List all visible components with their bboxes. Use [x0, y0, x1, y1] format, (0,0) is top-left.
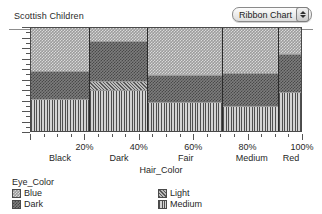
x-axis-tick: [44, 134, 45, 137]
mosaic-segment[interactable]: [31, 100, 89, 131]
x-axis-tick: [152, 134, 153, 137]
mosaic-segment[interactable]: [223, 107, 279, 131]
x-axis-tick: [261, 134, 262, 137]
x-axis-category-label: Red: [283, 153, 300, 163]
mosaic-segment[interactable]: [148, 103, 221, 131]
mosaic-plot-area[interactable]: [30, 27, 302, 132]
mosaic-segment[interactable]: [223, 28, 279, 74]
x-axis-percent-label: 40%: [130, 142, 148, 152]
y-axis-tick: [22, 90, 30, 91]
x-axis-tick: [30, 134, 31, 140]
mosaic-column[interactable]: [90, 28, 148, 131]
x-axis-percent-label: 80%: [239, 142, 257, 152]
mosaic-segment[interactable]: [90, 91, 147, 131]
mosaic-column[interactable]: [31, 28, 90, 131]
mosaic-segment[interactable]: [90, 82, 147, 91]
x-axis-percent-label: 100%: [290, 142, 313, 152]
x-axis-tick: [84, 134, 85, 140]
page-title: Scottish Children: [14, 11, 84, 21]
mosaic-segment[interactable]: [223, 74, 279, 107]
x-axis-tick: [234, 134, 235, 137]
x-axis-tick: [207, 134, 208, 137]
x-axis-tick: [220, 134, 221, 137]
x-axis-tick: [139, 134, 140, 140]
x-axis-tick: [57, 134, 58, 137]
legend-swatch: [12, 200, 21, 209]
legend-label: Dark: [24, 199, 43, 209]
x-axis-category-label: Black: [49, 153, 71, 163]
legend-swatch: [158, 200, 167, 209]
mosaic-segment[interactable]: [90, 42, 147, 81]
chart-type-popup-button[interactable]: Ribbon Chart: [232, 7, 312, 22]
x-axis-tick: [302, 134, 303, 140]
mosaic-segment[interactable]: [279, 28, 301, 55]
y-axis-tick: [22, 122, 30, 123]
x-axis-category-label: Fair: [178, 153, 194, 163]
legend-entry[interactable]: Blue: [12, 188, 42, 198]
x-axis-tick: [275, 134, 276, 137]
legend-swatch: [158, 189, 167, 198]
mosaic-segment[interactable]: [279, 55, 301, 93]
y-axis-tick: [22, 132, 30, 133]
x-axis-tick: [166, 134, 167, 137]
legend-entry[interactable]: Dark: [12, 199, 43, 209]
legend-title: Eye_Color: [12, 177, 54, 187]
y-axis-tick: [22, 69, 30, 70]
legend-label: Blue: [24, 188, 42, 198]
legend-label: Medium: [170, 199, 202, 209]
y-axis-tick: [22, 111, 30, 112]
legend-entry[interactable]: Medium: [158, 199, 202, 209]
y-axis-tick: [22, 38, 30, 39]
mosaic-segment[interactable]: [90, 28, 147, 42]
legend-label: Light: [170, 188, 190, 198]
x-axis-tick: [71, 134, 72, 137]
x-axis-title: Hair_Color: [0, 165, 322, 175]
chart-type-popup-label: Ribbon Chart: [239, 10, 296, 20]
x-axis-tick: [193, 134, 194, 140]
x-axis-tick: [112, 134, 113, 137]
y-axis-ticks: [22, 27, 30, 132]
mosaic-column[interactable]: [279, 28, 301, 131]
x-axis-tick: [288, 134, 289, 137]
y-axis-tick: [22, 59, 30, 60]
mosaic-segment[interactable]: [31, 72, 89, 100]
mosaic-column[interactable]: [148, 28, 222, 131]
mosaic-segment[interactable]: [279, 93, 301, 131]
stepper-control[interactable]: [296, 7, 309, 22]
y-axis-tick: [22, 80, 30, 81]
legend-entry[interactable]: Light: [158, 188, 190, 198]
x-axis-tick: [125, 134, 126, 137]
x-axis-percent-label: 60%: [184, 142, 202, 152]
x-axis-tick: [98, 134, 99, 137]
y-axis-tick: [22, 101, 30, 102]
x-axis-tick: [180, 134, 181, 137]
x-axis-category-label: Dark: [110, 153, 129, 163]
x-axis-ticks: [30, 134, 302, 142]
x-axis-category-label: Medium: [236, 153, 268, 163]
mosaic-column[interactable]: [223, 28, 280, 131]
y-axis-tick: [22, 27, 30, 28]
triangle-down-icon: [300, 15, 306, 18]
y-axis-tick: [22, 48, 30, 49]
triangle-up-icon: [300, 11, 306, 14]
x-axis-percent-label: 20%: [75, 142, 93, 152]
mosaic-segment[interactable]: [148, 28, 221, 76]
x-axis-tick: [248, 134, 249, 140]
mosaic-segment[interactable]: [148, 76, 221, 103]
legend-swatch: [12, 189, 21, 198]
legend: Eye_Color BlueDarkLightMedium: [12, 177, 312, 211]
chart-window: Scottish Children Ribbon Chart Hair_Colo…: [0, 0, 322, 214]
mosaic-segment[interactable]: [31, 28, 89, 72]
